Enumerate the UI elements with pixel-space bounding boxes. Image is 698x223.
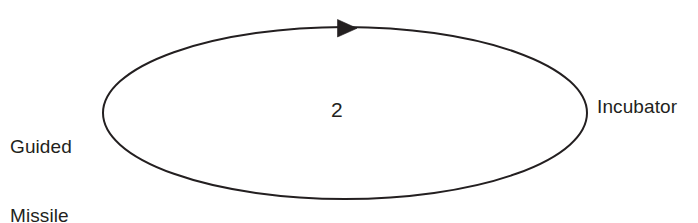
loop-number-label: 2: [325, 98, 349, 122]
left-node-label: Guided Missile: [10, 89, 102, 223]
loop-diagram-canvas: [0, 0, 698, 223]
left-node-label-line-2: Missile: [10, 204, 102, 223]
loop-diagram: Guided Missile Incubator 2: [0, 0, 698, 223]
right-node-label: Incubator: [597, 95, 698, 118]
left-node-label-line-1: Guided: [10, 135, 102, 158]
clockwise-arrowhead-icon: [338, 20, 358, 38]
